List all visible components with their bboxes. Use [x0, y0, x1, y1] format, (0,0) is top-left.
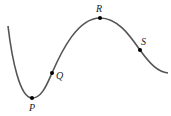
label-r: R — [95, 3, 102, 14]
function-curve — [8, 18, 168, 98]
curve-diagram: P Q R S — [0, 0, 171, 116]
label-s: S — [141, 36, 146, 47]
point-q — [50, 71, 54, 75]
point-p — [30, 96, 34, 100]
point-s — [138, 48, 142, 52]
label-q: Q — [56, 70, 64, 81]
point-r — [98, 16, 102, 20]
label-p: P — [28, 102, 35, 113]
